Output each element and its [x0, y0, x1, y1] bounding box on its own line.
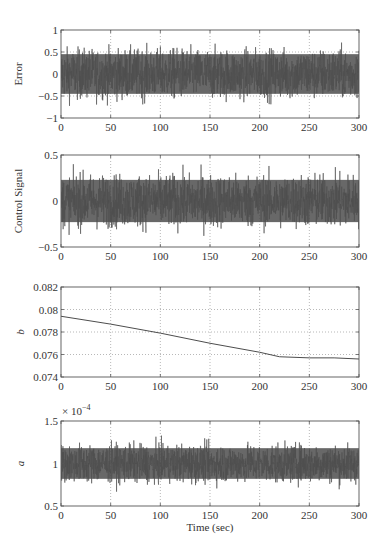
x-tick-label: 0	[58, 121, 64, 133]
y-exponent-label: × 10−4	[62, 403, 90, 417]
y-tick-label: −1	[46, 112, 58, 124]
x-tick-label: 150	[202, 121, 219, 133]
y-axis-label: Control Signal	[12, 169, 24, 233]
y-tick-label: 1	[53, 24, 59, 36]
grid-lines	[61, 287, 359, 377]
y-tick-label: 0	[53, 195, 59, 207]
y-axis-label: a	[14, 460, 26, 466]
x-tick-label: 300	[351, 380, 368, 392]
x-tick-label: 200	[251, 380, 268, 392]
error-plot: 050100150200250300−1−0.500.51Error	[12, 24, 368, 133]
y-tick-label: 0.08	[39, 304, 59, 316]
x-tick-label: 150	[202, 250, 219, 262]
y-tick-label: 0	[53, 68, 59, 80]
x-tick-label: 250	[301, 509, 318, 521]
x-tick-label: 150	[202, 509, 219, 521]
y-tick-label: −0.5	[38, 241, 58, 253]
x-tick-label: 250	[301, 121, 318, 133]
x-tick-label: 50	[105, 121, 117, 133]
x-tick-label: 300	[351, 250, 368, 262]
exponent-base: × 10	[62, 405, 82, 417]
x-tick-label: 100	[152, 380, 169, 392]
y-tick-label: 0.082	[33, 281, 58, 293]
control-signal-plot: 050100150200250300−0.500.5Control Signal	[12, 149, 368, 262]
x-tick-label: 250	[301, 250, 318, 262]
x-tick-label: 200	[251, 250, 268, 262]
x-tick-label: 300	[351, 509, 368, 521]
x-tick-label: 300	[351, 121, 368, 133]
x-tick-label: 200	[251, 509, 268, 521]
x-tick-label: 50	[105, 250, 117, 262]
figure: 050100150200250300−1−0.500.51Error 05010…	[0, 0, 387, 557]
x-tick-label: 200	[251, 121, 268, 133]
y-tick-label: 0.074	[33, 371, 58, 383]
y-axis-label: b	[14, 329, 26, 335]
y-tick-label: 0.078	[33, 326, 58, 338]
y-tick-label: 1.5	[44, 415, 58, 427]
a-parameter-plot: 0501001502002503000.511.5a	[14, 415, 368, 521]
data-series	[61, 436, 359, 492]
y-tick-label: 0.5	[44, 46, 58, 58]
y-axis-label: Error	[12, 62, 24, 86]
data-series	[61, 164, 359, 236]
x-tick-label: 250	[301, 380, 318, 392]
y-tick-label: 0.5	[44, 500, 58, 512]
y-tick-label: 0.076	[33, 349, 58, 361]
x-tick-label: 0	[58, 380, 64, 392]
b-parameter-plot: 0501001502002503000.0740.0760.0780.080.0…	[14, 281, 368, 392]
exponent-power: −4	[82, 403, 91, 412]
x-tick-label: 100	[152, 121, 169, 133]
x-tick-label: 0	[58, 509, 64, 521]
data-series	[61, 316, 359, 359]
y-tick-label: −0.5	[38, 90, 58, 102]
y-tick-label: 1	[53, 458, 59, 470]
x-tick-label: 50	[105, 509, 117, 521]
x-tick-label: 100	[152, 509, 169, 521]
x-tick-label: 0	[58, 250, 64, 262]
x-tick-label: 150	[202, 380, 219, 392]
x-axis-label: Time (sec)	[187, 521, 234, 534]
y-tick-label: 0.5	[44, 149, 58, 161]
x-tick-label: 100	[152, 250, 169, 262]
x-tick-label: 50	[105, 380, 117, 392]
